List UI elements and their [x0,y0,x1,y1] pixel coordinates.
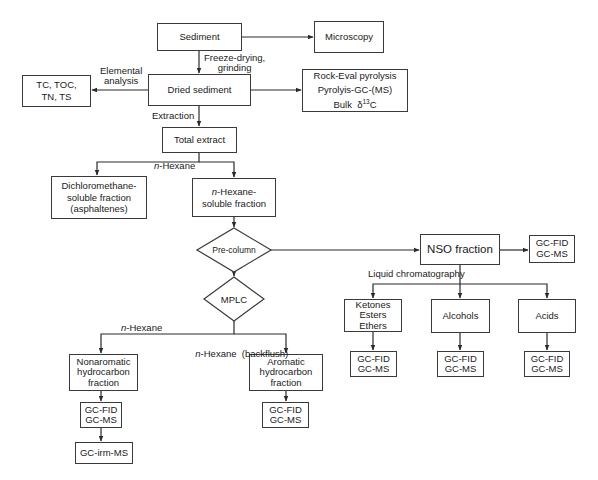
bulk-analyses-node: Rock-Eval pyrolysis Pyrolyis-GC-(MS) Bul… [302,69,408,112]
irm-ms-label: GC-irm-MS [80,447,128,459]
total-extract-label: Total extract [174,134,225,146]
dcm-line-3: (asphaltenes) [70,203,128,215]
hexane-fraction-node: n-Hexane- soluble fraction [192,178,276,217]
hexane-split-label: n-Hexane [154,160,195,171]
sediment-label: Sediment [179,31,219,43]
nonaromatic-gc-node: GC-FID GC-MS [80,402,122,428]
hexane-fraction-line-2: soluble fraction [202,198,266,210]
sediment-node: Sediment [157,23,242,51]
mplc-hexane-label: n-Hexane [121,322,162,333]
ethers-label: Ethers [359,321,386,331]
bulk-delta13c-label: Bulk δ13C [333,97,376,112]
ketones-gc-node: GC-FID GC-MS [350,351,397,377]
gc-ms-label: GC-MS [270,415,302,425]
dcm-fraction-node: Dichloromethane- soluble fraction (aspha… [51,176,147,219]
gc-ms-label: GC-MS [531,364,563,374]
gc-ms-label: GC-MS [536,249,568,260]
aromatic-gc-node: GC-FID GC-MS [262,402,309,428]
nonaromatic-line-3: fraction [88,378,119,388]
elemental-analysis-label: Elemental analysis [100,66,142,87]
extraction-label: Extraction [152,110,194,121]
precolumn-label: Pre-column [212,245,255,255]
liquid-chromatography-label: Liquid chromatography [368,268,465,279]
elemental-line-1: TC, TOC, [36,79,76,91]
irm-ms-node: GC-irm-MS [75,442,133,464]
mplc-label: MPLC [221,294,247,305]
dcm-line-1: Dichloromethane- [62,180,137,192]
microscopy-label: Microscopy [325,31,373,43]
nso-gc-node: GC-FID GC-MS [529,235,575,263]
total-extract-node: Total extract [162,127,237,153]
alcohols-node: Alcohols [431,299,490,333]
gc-ms-label: GC-MS [85,415,117,425]
dcm-line-2: soluble fraction [67,192,131,204]
pyrolysis-gc-label: Pyrolyis-GC-(MS) [318,83,392,97]
acids-label: Acids [535,310,558,322]
dried-sediment-label: Dried sediment [168,84,232,96]
elemental-line-2: TN, TS [42,91,72,103]
hexane-fraction-line-1: n-Hexane- [212,186,256,198]
nonaromatic-node: Nonaromatic hydrocarbon fraction [69,354,138,391]
acids-gc-node: GC-FID GC-MS [524,351,570,377]
freeze-drying-label: Freeze-drying, grinding [204,53,265,74]
alcohols-label: Alcohols [443,310,479,322]
nso-fraction-label: NSO fraction [427,242,493,256]
mplc-backflush-label: n-Hexane (backflush) [190,337,288,360]
gc-ms-label: GC-MS [445,364,477,374]
acids-node: Acids [518,299,576,333]
microscopy-node: Microscopy [314,21,384,53]
alcohols-gc-node: GC-FID GC-MS [437,351,484,377]
gc-ms-label: GC-MS [358,364,390,374]
ketones-node: Ketones Esters Ethers [344,299,402,332]
nso-fraction-node: NSO fraction [420,234,500,265]
elemental-results-node: TC, TOC, TN, TS [22,75,91,107]
aromatic-line-3: fraction [270,378,301,388]
dried-sediment-node: Dried sediment [148,74,251,106]
rock-eval-label: Rock-Eval pyrolysis [314,69,397,83]
